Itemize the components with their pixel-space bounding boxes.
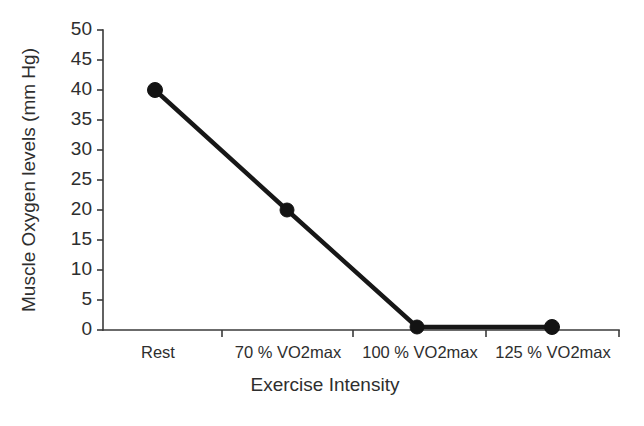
y-tick-label-35: 35 — [71, 108, 92, 129]
x-axis-title: Exercise Intensity — [251, 374, 400, 395]
x-tick-label-100-vo2max: 100 % VO2max — [362, 343, 478, 361]
x-tick-label-70-vo2max: 70 % VO2max — [235, 343, 342, 361]
y-axis-title: Muscle Oxygen levels (mm Hg) — [18, 48, 39, 312]
y-tick-label-50: 50 — [71, 18, 92, 39]
y-tick-label-30: 30 — [71, 138, 92, 159]
x-tick-label-rest: Rest — [141, 343, 175, 361]
y-tick-label-45: 45 — [71, 48, 92, 69]
line-chart-canvas: 0 5 10 15 20 25 30 35 40 45 50 Rest 70 %… — [0, 0, 644, 426]
y-tick-label-25: 25 — [71, 168, 92, 189]
y-tick-label-40: 40 — [71, 78, 92, 99]
data-point-100-vo2max — [410, 320, 424, 334]
chart-figure: 0 5 10 15 20 25 30 35 40 45 50 Rest 70 %… — [0, 0, 644, 426]
data-point-rest — [148, 83, 163, 98]
y-tick-label-10: 10 — [71, 258, 92, 279]
y-tick-label-20: 20 — [71, 198, 92, 219]
y-tick-label-15: 15 — [71, 228, 92, 249]
y-tick-label-0: 0 — [81, 318, 92, 339]
data-point-70-vo2max — [280, 203, 294, 217]
y-axis-ticks — [97, 30, 103, 330]
x-tick-label-125-vo2max: 125 % VO2max — [495, 343, 611, 361]
y-tick-label-5: 5 — [81, 288, 92, 309]
series-line-muscle-oxygen — [155, 90, 552, 327]
data-point-125-vo2max — [545, 320, 560, 335]
